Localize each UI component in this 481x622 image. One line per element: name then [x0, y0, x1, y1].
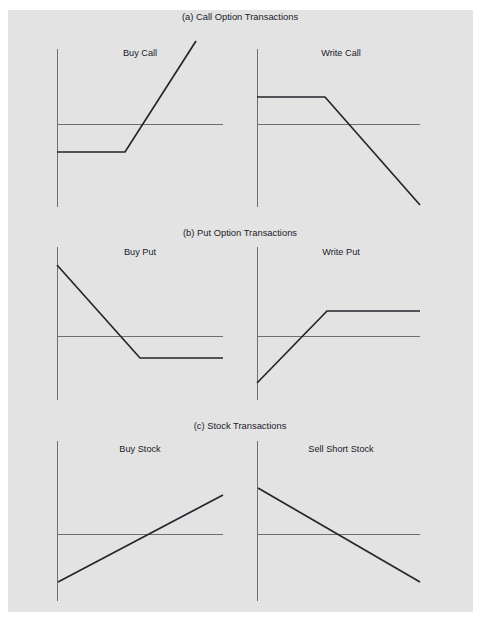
section-title-c: (c) Stock Transactions	[194, 420, 287, 431]
panel-buy-call: Buy Call	[57, 41, 223, 207]
panel-buy-put: Buy Put	[57, 247, 223, 400]
section-title-a: (a) Call Option Transactions	[182, 11, 299, 22]
payoff-diagram-canvas: (a) Call Option Transactions Buy Call Wr…	[0, 0, 481, 622]
panel-title-buy-put: Buy Put	[124, 247, 157, 257]
payoff-curve-write-put	[257, 311, 420, 383]
payoff-curve-write-call	[257, 97, 420, 205]
panel-title-sell-short-stock: Sell Short Stock	[308, 444, 374, 454]
payoff-curve-buy-stock	[58, 495, 223, 582]
panel-buy-stock: Buy Stock	[57, 441, 223, 601]
panel-write-put: Write Put	[257, 247, 420, 400]
panel-write-call: Write Call	[257, 48, 420, 207]
panel-title-write-call: Write Call	[321, 48, 361, 58]
payoff-diagram-figure: (a) Call Option Transactions Buy Call Wr…	[0, 0, 481, 622]
panel-title-write-put: Write Put	[322, 247, 360, 257]
panel-sell-short-stock: Sell Short Stock	[257, 441, 420, 601]
payoff-curve-buy-put	[57, 265, 223, 358]
section-title-b: (b) Put Option Transactions	[183, 227, 297, 238]
panel-title-buy-stock: Buy Stock	[119, 444, 161, 454]
panel-title-buy-call: Buy Call	[123, 48, 157, 58]
